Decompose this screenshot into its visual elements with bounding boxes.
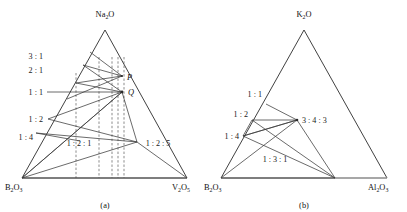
panel-a: 3 : 1 2 : 1 1 : 1 1 : 2 1 : 4 1 : 2 : 1 … (5, 10, 190, 210)
panel-b-right-edge (304, 30, 387, 178)
panel-b-bl-to-node (221, 120, 297, 178)
diagram-canvas: 3 : 1 2 : 1 1 : 1 1 : 2 1 : 4 1 : 2 : 1 … (0, 0, 407, 212)
panel-a-point-q-marker (121, 91, 124, 94)
panel-a-edge-label-3: 1 : 2 (29, 115, 43, 124)
panel-a-ray-to-p-2 (76, 76, 122, 83)
panel-a-vertex-bottom-right: V2O5 (172, 183, 190, 193)
panel-b-edge-label-2: 1 : 4 (225, 132, 239, 141)
panel-b-ray-5 (243, 120, 297, 136)
panel-b: 1 : 1 1 : 2 1 : 4 3 : 4 : 3 1 : 3 : 1 K2… (204, 10, 388, 210)
panel-a-edge-label-2: 1 : 1 (29, 88, 43, 97)
panel-a-point-label-q: Q (128, 88, 134, 97)
ternary-diagram-figure: 3 : 1 2 : 1 1 : 1 1 : 2 1 : 4 1 : 2 : 1 … (0, 0, 407, 212)
panel-a-ray-to-p-4 (90, 52, 122, 76)
panel-a-caption: (a) (100, 201, 110, 210)
panel-b-caption: (b) (299, 201, 309, 210)
panel-a-edge-label-4: 1 : 4 (19, 133, 33, 142)
panel-a-point-label-p: P (126, 73, 132, 82)
panel-a-interior-label-0: 1 : 2 : 1 (67, 139, 92, 148)
panel-b-node-343-marker (296, 119, 299, 122)
panel-a-ray-to-p-3 (83, 65, 122, 76)
panel-a-bl-to-q (22, 92, 122, 178)
panel-a-vertex-top: Na2O (96, 10, 115, 20)
panel-b-node12-to-base (252, 120, 335, 178)
panel-a-point-p-marker (121, 75, 123, 77)
panel-b-ray-1 (266, 104, 297, 120)
panel-b-interior-label-1: 1 : 3 : 1 (263, 155, 288, 164)
panel-b-vertex-bottom-left: B2O3 (204, 183, 222, 193)
panel-b-interior-label-0: 3 : 4 : 3 (302, 116, 327, 125)
panel-b-vertex-top: K2O (296, 10, 311, 20)
panel-a-right-edge (105, 30, 187, 178)
panel-b-edge-label-1: 1 : 2 (234, 110, 248, 119)
panel-a-vertex-bottom-left: B2O3 (5, 183, 23, 193)
panel-a-ray-to-q-2 (48, 92, 122, 119)
panel-a-edge-label-1: 2 : 1 (29, 66, 43, 75)
panel-b-edge-label-0: 1 : 1 (248, 90, 262, 99)
panel-a-ray-to-p-1 (67, 76, 122, 99)
panel-a-interior-label-1: 1 : 2 : 5 (146, 139, 171, 148)
panel-b-vertex-bottom-right: Al2O3 (368, 183, 388, 193)
panel-a-edge-label-0: 3 : 1 (29, 52, 43, 61)
